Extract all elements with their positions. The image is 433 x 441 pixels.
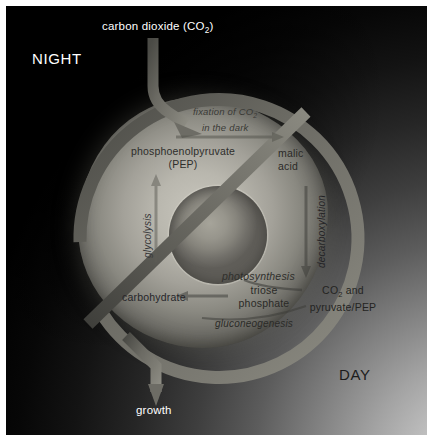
label-gluconeogenesis: gluconeogenesis — [215, 318, 293, 329]
label-night: NIGHT — [32, 50, 82, 67]
figure-canvas: carbon dioxide (CO2) NIGHT DAY growth fi… — [0, 0, 433, 441]
label-carbon-dioxide: carbon dioxide (CO2) — [102, 20, 214, 35]
diagram-artwork: carbon dioxide (CO2) NIGHT DAY growth fi… — [6, 6, 427, 435]
label-decarboxylation: decarboxylation — [316, 195, 327, 268]
label-carbohydrate: carbohydrate — [122, 291, 186, 303]
label-day: DAY — [339, 366, 371, 383]
label-photosynthesis: photosynthesis — [222, 270, 295, 282]
label-phosphoenolpyruvate: phosphoenolpyruvate(PEP) — [118, 145, 248, 171]
label-malic-acid: malicacid — [278, 147, 304, 173]
growth-outlet-arrow — [126, 336, 164, 406]
label-fixation-of-co2-in-the-dark: fixation of CO2in the dark — [193, 106, 257, 134]
internal-arrow-decarboxylation-vertical — [301, 186, 311, 278]
label-co2-and-pyruvate-pep: CO2 andpyruvate/PEP — [306, 284, 380, 314]
label-glycolysis: glycolysis — [142, 213, 153, 258]
label-triose-phosphate: triosephosphate — [232, 284, 296, 310]
label-growth: growth — [136, 404, 172, 416]
